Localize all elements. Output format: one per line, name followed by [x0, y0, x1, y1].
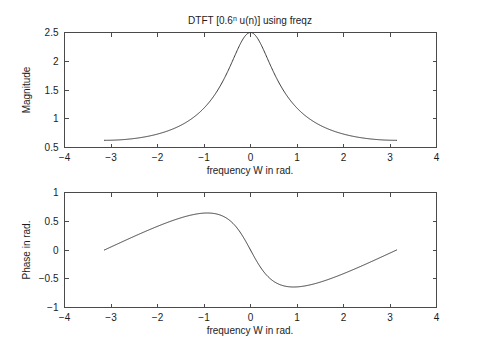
tick-label: 4	[434, 152, 440, 163]
tick-label: 2	[341, 312, 347, 323]
tick-label: −1	[198, 312, 210, 323]
tick-label: 1	[53, 113, 59, 124]
tick-label: 1.5	[45, 85, 59, 96]
tick-label: −1	[198, 152, 210, 163]
tick-label: −3	[105, 312, 117, 323]
tick-label: 3	[387, 312, 393, 323]
magnitude-y-ticks: 0.511.522.5	[45, 27, 437, 153]
tick-label: 4	[434, 312, 440, 323]
tick-label: −4	[59, 152, 71, 163]
phase-y-ticks: −1−0.500.51	[39, 187, 437, 313]
magnitude-plot-title: DTFT [0.6n u(n)] using freqz	[188, 15, 312, 27]
tick-label: −1	[47, 302, 59, 313]
tick-label: −2	[152, 312, 164, 323]
magnitude-axes-box	[65, 33, 437, 148]
tick-label: 1	[294, 152, 300, 163]
tick-label: 0	[248, 152, 254, 163]
tick-label: 0.5	[45, 142, 59, 153]
tick-label: 0	[53, 245, 59, 256]
tick-label: −4	[59, 312, 71, 323]
magnitude-y-axis-label: Magnitude	[21, 66, 32, 113]
tick-label: 1	[294, 312, 300, 323]
phase-plot: −1−0.500.51 −4−3−2−101234 Phase in rad. …	[21, 187, 440, 336]
tick-label: −3	[105, 152, 117, 163]
phase-y-axis-label: Phase in rad.	[21, 221, 32, 280]
magnitude-plot: DTFT [0.6n u(n)] using freqz 0.511.522.5…	[21, 15, 440, 177]
tick-label: 2	[341, 152, 347, 163]
tick-label: 2	[53, 56, 59, 67]
tick-label: 3	[387, 152, 393, 163]
tick-label: 1	[53, 187, 59, 198]
tick-label: −0.5	[39, 273, 59, 284]
tick-label: 0.5	[45, 216, 59, 227]
phase-x-ticks: −4−3−2−101234	[59, 193, 440, 323]
phase-x-axis-label: frequency W in rad.	[207, 325, 294, 336]
phase-curve	[104, 213, 396, 287]
dtft-figure: DTFT [0.6n u(n)] using freqz 0.511.522.5…	[0, 0, 477, 352]
tick-label: −2	[152, 152, 164, 163]
magnitude-x-axis-label: frequency W in rad.	[207, 165, 294, 176]
tick-label: 2.5	[45, 27, 59, 38]
magnitude-x-ticks: −4−3−2−101234	[59, 33, 440, 163]
tick-label: 0	[248, 312, 254, 323]
magnitude-curve	[104, 33, 396, 141]
